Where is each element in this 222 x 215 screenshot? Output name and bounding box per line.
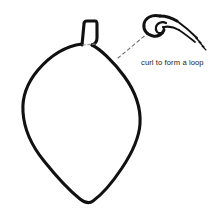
curl-caption: curl to form a loop [141, 58, 221, 68]
diagram-canvas: curl to form a loop [0, 0, 222, 215]
line-art-illustration [0, 0, 222, 215]
